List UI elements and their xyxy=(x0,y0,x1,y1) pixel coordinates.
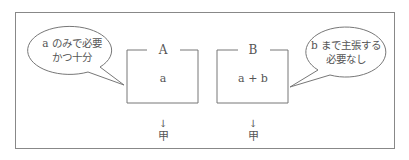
down-arrow-icon: ↓ xyxy=(159,117,167,130)
box-a-result: 甲 xyxy=(158,130,169,143)
bubble-right-line2: 必要なし xyxy=(311,52,381,66)
box-a-title: A xyxy=(159,44,168,57)
bubble-right-line1: b まで主張する xyxy=(311,38,381,52)
box-b-content: a + b xyxy=(238,72,268,85)
bubble-left-line2: かつ十分 xyxy=(42,50,102,64)
bubble-left-line1: a のみで必要 xyxy=(42,36,102,50)
box-b-title: B xyxy=(249,44,258,57)
bubble-right-text: b まで主張する 必要なし xyxy=(311,38,381,66)
down-arrow-icon: ↓ xyxy=(249,117,257,130)
box-a-content: a xyxy=(160,72,167,85)
diagram-lines xyxy=(0,0,409,160)
bubble-left-text: a のみで必要 かつ十分 xyxy=(42,36,102,64)
box-b-result: 甲 xyxy=(248,130,259,143)
